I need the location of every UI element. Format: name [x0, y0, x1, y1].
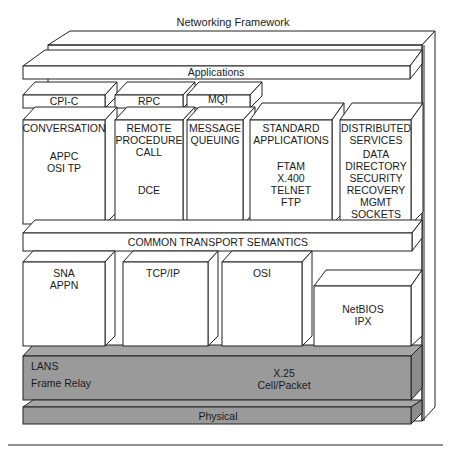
service-line: APPC — [50, 150, 79, 162]
networking-framework-diagram: Networking Framework Applications CPI-C … — [0, 0, 458, 450]
protocol-label: SNA — [53, 267, 75, 279]
service-title: QUEUING — [190, 134, 239, 146]
service-line: FTP — [281, 196, 301, 208]
service-title: MESSAGE — [189, 122, 241, 134]
service-line: RECOVERY — [347, 184, 406, 196]
service-line: TELNET — [271, 184, 312, 196]
protocol-sna-box — [23, 251, 115, 346]
diagram-title: Networking Framework — [176, 16, 290, 28]
protocol-label: NetBIOS — [342, 303, 383, 315]
subnet-left-label: LANS — [31, 360, 58, 372]
service-line: MGMT — [360, 196, 393, 208]
transport-label: COMMON TRANSPORT SEMANTICS — [128, 236, 308, 248]
applications-label: Applications — [188, 66, 245, 78]
service-line: DATA — [363, 148, 389, 160]
subnetworking-layer — [23, 345, 422, 400]
protocol-tcpip-box — [123, 251, 218, 346]
service-title: STANDARD — [263, 122, 320, 134]
protocol-label: APPN — [50, 279, 79, 291]
service-title: SERVICES — [350, 134, 403, 146]
physical-label: Physical — [198, 410, 237, 422]
service-title: PROCEDURE — [115, 134, 182, 146]
subnet-center-label: X.25 — [273, 367, 295, 379]
service-line: X.400 — [277, 172, 305, 184]
service-title: CONVERSATION — [22, 122, 105, 134]
subnet-left-label: Frame Relay — [31, 377, 92, 389]
protocol-osi-box — [222, 251, 312, 346]
protocol-label: IPX — [355, 315, 372, 327]
service-line: FTAM — [277, 160, 305, 172]
service-line: DCE — [138, 184, 160, 196]
service-line: OSI TP — [47, 162, 81, 174]
protocol-label: OSI — [253, 267, 271, 279]
service-line: SOCKETS — [351, 208, 401, 220]
service-title: DISTRIBUTED — [341, 122, 411, 134]
protocol-label: TCP/IP — [146, 267, 180, 279]
subnet-center-label: Cell/Packet — [257, 379, 310, 391]
service-line: SECURITY — [349, 172, 402, 184]
service-title: APPLICATIONS — [253, 134, 329, 146]
service-line: DIRECTORY — [345, 160, 406, 172]
api-cpic-label: CPI-C — [50, 95, 79, 107]
api-mqi-label: MQI — [208, 93, 228, 105]
api-rpc-label: RPC — [138, 95, 161, 107]
service-title: CALL — [136, 146, 162, 158]
service-title: REMOTE — [127, 122, 172, 134]
